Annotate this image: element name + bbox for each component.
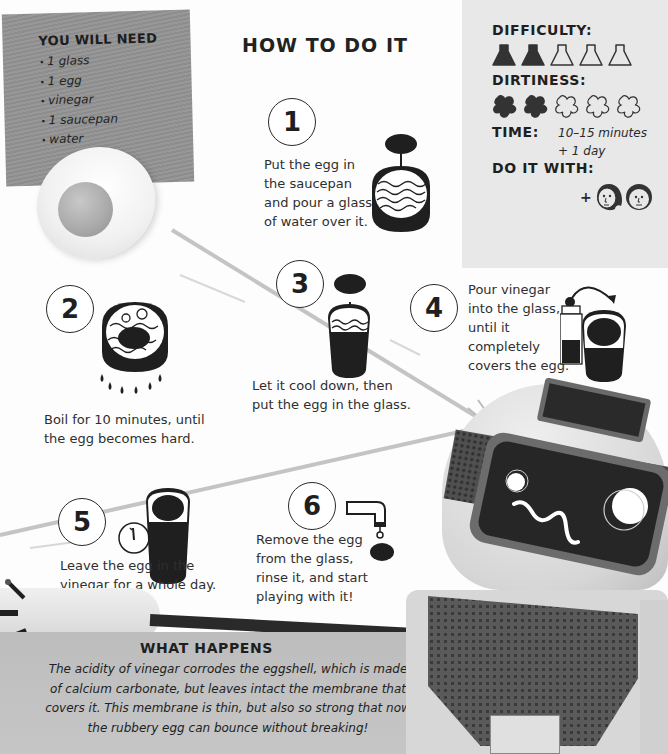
step-text-line: Pour vinegar [468,280,569,299]
what-happens-line: covers it. This membrane is thin, but al… [28,699,428,719]
step-text-line: the egg becomes hard. [44,429,205,448]
ingredient-list: 1 glass 1 egg vinegar 1 saucepan water [39,49,194,150]
step-3-number: 3 [276,260,324,308]
how-to-title: HOW TO DO IT [242,34,408,56]
step-1-number: 1 [268,98,316,146]
step-4-number: 4 [410,284,458,332]
robot-shoulder [640,600,668,754]
tap-rinse-egg-icon [346,500,394,564]
splat-filled-icon [492,94,518,118]
step-text-line: of water over it. [264,212,372,231]
step-2-number: 2 [46,285,94,333]
flask-filled-icon [492,44,516,66]
splat-outline-icon [585,94,611,118]
flask-outline-icon [550,44,574,66]
flask-outline-icon [579,44,603,66]
egg-yolk-illustration [58,182,113,237]
step-text-line: rinse it, and start [256,568,368,587]
ingredient-item: water [41,127,193,150]
step-1-text: Put the egg in the saucepan and pour a g… [264,155,372,231]
what-happens-body: The acidity of vinegar corrodes the eggs… [28,660,428,738]
do-it-with-label: DO IT WITH: [492,160,668,176]
step-text-line: Put the egg in [264,155,372,174]
dirtiness-label: DIRTINESS: [492,72,668,88]
step-text-line: Let it cool down, then [252,376,411,395]
robot-chest-plate [490,715,560,754]
what-happens-title: WHAT HAPPENS [140,640,273,656]
step-4-text: Pour vinegar into the glass, until it co… [468,280,569,375]
step-text-line: playing with it! [256,587,368,606]
plus-sign: + [580,189,592,205]
vinegar-bottle-pour-icon [560,280,630,384]
what-happens-line: of calcium carbonate, but leaves intact … [28,680,428,700]
what-happens-line: The acidity of vinegar corrodes the eggs… [28,660,428,680]
info-panel: DIFFICULTY: DIRTINESS: TIME: 10–15 minut… [462,0,668,268]
what-happens-line: the rubbery egg can bounce without break… [28,719,428,739]
egg-into-glass-icon [324,272,374,380]
splat-outline-icon [554,94,580,118]
flask-filled-icon [521,44,545,66]
step-2-text: Boil for 10 minutes, until the egg becom… [44,410,205,448]
time-value-line: + 1 day [558,142,647,160]
step-5-number: 5 [58,498,106,546]
time-value: 10–15 minutes + 1 day [558,124,647,160]
difficulty-label: DIFFICULTY: [492,22,668,38]
step-text-line: put the egg in the glass. [252,395,411,414]
time-label: TIME: [492,124,558,140]
time-row: TIME: 10–15 minutes + 1 day [492,124,668,160]
step-text-line: Boil for 10 minutes, until [44,410,205,429]
splat-outline-icon [616,94,642,118]
step-text-line: until it [468,318,569,337]
flask-outline-icon [608,44,632,66]
time-value-line: 10–15 minutes [558,124,647,142]
companions: + [580,182,668,212]
boiling-pot-flames-icon [98,296,172,396]
step-6-number: 6 [288,482,336,530]
step-text-line: into the glass, [468,299,569,318]
step-text-line: covers the egg. [468,356,569,375]
boy-face-icon [624,182,654,212]
girl-face-icon [594,182,624,212]
splat-filled-icon [523,94,549,118]
step-3-text: Let it cool down, then put the egg in th… [252,376,411,414]
robot-face [490,460,660,560]
step-text-line: and pour a glass [264,193,372,212]
step-text-line: the saucepan [264,174,372,193]
saucepan-water-egg-icon [368,134,434,234]
step-text-line: completely [468,337,569,356]
you-will-need-title: YOU WILL NEED [38,30,190,49]
difficulty-rating [492,44,668,66]
dirtiness-rating [492,94,668,118]
step-text-line: Leave the egg in the [60,556,216,575]
